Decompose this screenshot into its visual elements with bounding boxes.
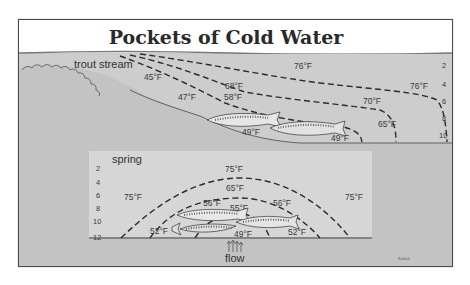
spring-temp-52-left: 52°F <box>150 226 168 236</box>
svg-text:6: 6 <box>442 97 446 106</box>
spring-temp-75-left: 75°F <box>124 192 142 202</box>
spring-temp-75-right: 75°F <box>345 192 363 202</box>
spring-temp-65: 65°F <box>226 183 244 193</box>
flow-label: flow <box>225 252 245 264</box>
artist-signature: Kelsch <box>398 256 410 261</box>
temp-47: 47°F <box>178 92 196 102</box>
svg-text:4: 4 <box>96 178 100 187</box>
svg-text:8: 8 <box>442 114 446 123</box>
temp-58: 58°F <box>224 92 242 102</box>
temp-65: 65°F <box>378 119 396 129</box>
temp-76-right: 76°F <box>410 81 428 91</box>
spring-label: spring <box>112 153 142 165</box>
svg-text:10: 10 <box>439 131 447 140</box>
spring-temp-56-left: 56°F <box>203 198 221 208</box>
temp-49-fish1: 49°F <box>242 127 260 137</box>
spring-temp-75-top: 75°F <box>225 164 243 174</box>
stream-label: trout stream <box>74 58 133 70</box>
spring-temp-56-right: 56°F <box>273 198 291 208</box>
pockets-of-cold-water-diagram: Pockets of Cold Water trout stream 76°F … <box>0 0 470 285</box>
spring-temp-49: 49°F <box>234 229 252 239</box>
title: Pockets of Cold Water <box>109 26 345 48</box>
svg-text:2: 2 <box>442 61 446 70</box>
svg-text:10: 10 <box>93 217 101 226</box>
temp-45: 45°F <box>144 72 162 82</box>
svg-text:2: 2 <box>96 164 100 173</box>
temp-68: 68°F <box>225 81 243 91</box>
svg-text:4: 4 <box>442 80 446 89</box>
svg-text:12: 12 <box>93 233 101 242</box>
temp-76-top: 76°F <box>294 61 312 71</box>
svg-text:8: 8 <box>96 204 100 213</box>
svg-text:6: 6 <box>96 191 100 200</box>
temp-70: 70°F <box>363 96 381 106</box>
